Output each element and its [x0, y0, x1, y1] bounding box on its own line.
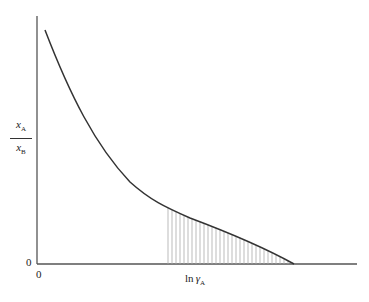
y-axis-label: xA xB	[10, 118, 32, 159]
x-axis-label: ln γA	[185, 272, 205, 287]
x-origin-label: 0	[36, 268, 42, 280]
y-origin-label: 0	[26, 256, 32, 268]
diagram-canvas	[0, 0, 369, 302]
curve	[45, 30, 294, 264]
